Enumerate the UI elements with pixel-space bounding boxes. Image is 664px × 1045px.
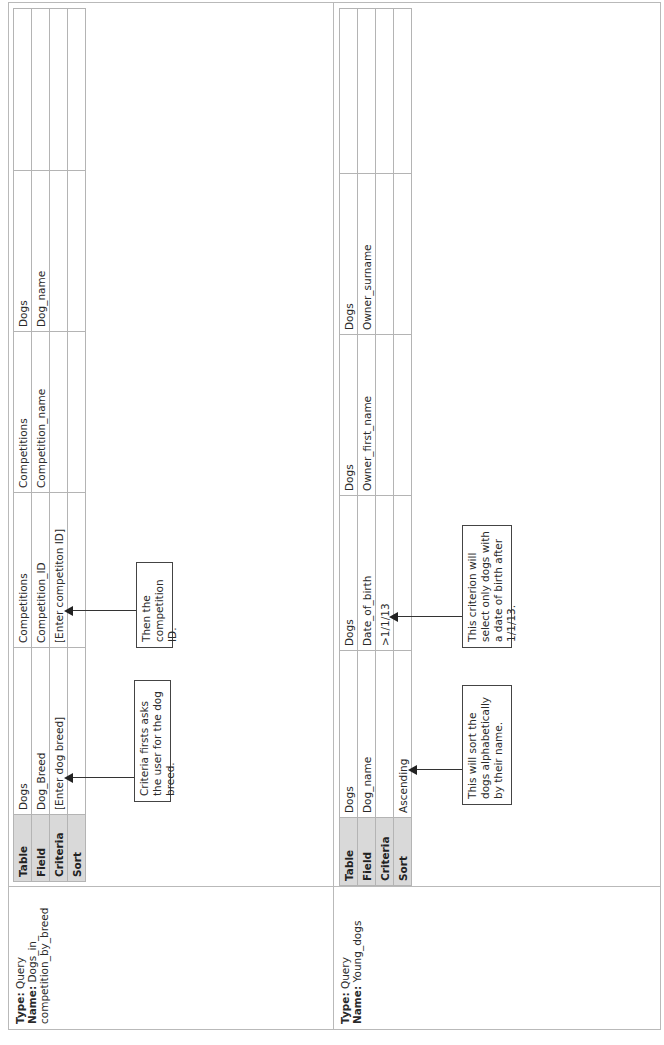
type-label: Type: bbox=[14, 992, 26, 1024]
grid-row-sort: Sort Ascending bbox=[394, 9, 412, 886]
query-row-divider bbox=[333, 2, 334, 1030]
name-label: Name: bbox=[351, 986, 363, 1024]
grid-row-table: Table Dogs Competitions Competitions Dog… bbox=[14, 9, 32, 882]
row-header-table: Table bbox=[340, 818, 358, 886]
query-2-design-grid: Table Dogs Dogs Dogs Dogs Field Dog_name… bbox=[339, 8, 412, 886]
grid-cell[interactable]: Dogs bbox=[14, 171, 32, 332]
row-header-table: Table bbox=[14, 815, 32, 882]
grid-cell[interactable] bbox=[50, 9, 68, 171]
grid-cell[interactable]: Date_of_birth bbox=[358, 496, 376, 651]
callout-note: This will sort the dogs alphabetically b… bbox=[462, 685, 512, 805]
grid-cell[interactable]: Dog_name bbox=[32, 171, 50, 332]
grid-cell[interactable] bbox=[68, 9, 86, 171]
grid-cell[interactable]: Dog_Breed bbox=[32, 648, 50, 815]
grid-cell[interactable] bbox=[394, 335, 412, 496]
row-header-sort: Sort bbox=[394, 818, 412, 886]
grid-cell[interactable] bbox=[394, 9, 412, 174]
grid-cell[interactable] bbox=[340, 9, 358, 174]
grid-cell[interactable]: Dogs bbox=[340, 335, 358, 496]
grid-cell[interactable] bbox=[376, 174, 394, 335]
row-header-sort: Sort bbox=[68, 815, 86, 882]
query-1-design-grid: Table Dogs Competitions Competitions Dog… bbox=[13, 8, 86, 882]
grid-cell[interactable]: >1/1/13 bbox=[376, 496, 394, 651]
arrow-head-icon bbox=[64, 606, 73, 616]
grid-cell[interactable]: Dogs bbox=[340, 496, 358, 651]
grid-row-criteria: Criteria >1/1/13 bbox=[376, 9, 394, 886]
arrow-head-icon bbox=[408, 765, 417, 775]
callout-arrow bbox=[417, 769, 462, 770]
grid-cell[interactable] bbox=[14, 9, 32, 171]
type-label: Type: bbox=[339, 992, 351, 1024]
callout-note: Criteria firsts asks the user for the do… bbox=[134, 680, 171, 802]
grid-cell[interactable]: Competition_ID bbox=[32, 493, 50, 648]
grid-cell[interactable]: Ascending bbox=[394, 651, 412, 818]
type-value: Query bbox=[14, 957, 26, 989]
row-header-criteria: Criteria bbox=[50, 815, 68, 882]
name-value: Young_dogs bbox=[351, 921, 363, 983]
grid-cell[interactable]: Owner_first_name bbox=[358, 335, 376, 496]
grid-cell[interactable] bbox=[32, 9, 50, 171]
grid-cell[interactable]: Dog_name bbox=[358, 651, 376, 818]
grid-cell[interactable] bbox=[50, 332, 68, 493]
callout-arrow bbox=[73, 777, 134, 778]
callout-note: Then the competition ID. bbox=[136, 562, 173, 648]
grid-cell[interactable] bbox=[68, 493, 86, 648]
document-page: Type: Query Name: Dogs_in_ competition_b… bbox=[0, 0, 664, 1045]
grid-cell[interactable]: Competitions bbox=[14, 493, 32, 648]
grid-cell[interactable] bbox=[68, 648, 86, 815]
grid-cell[interactable]: [Enter dog breed] bbox=[50, 648, 68, 815]
callout-arrow bbox=[398, 616, 462, 617]
grid-cell[interactable]: Dogs bbox=[340, 651, 358, 818]
grid-cell[interactable]: Owner_surname bbox=[358, 174, 376, 335]
grid-row-criteria: Criteria [Enter dog breed] [Enter compet… bbox=[50, 9, 68, 882]
grid-cell[interactable] bbox=[358, 9, 376, 174]
grid-cell[interactable] bbox=[68, 171, 86, 332]
grid-row-field: Field Dog_Breed Competition_ID Competiti… bbox=[32, 9, 50, 882]
grid-cell[interactable] bbox=[394, 496, 412, 651]
grid-cell[interactable] bbox=[376, 335, 394, 496]
query-1-info: Type: Query Name: Dogs_in_ competition_b… bbox=[14, 889, 50, 1024]
row-header-criteria: Criteria bbox=[376, 818, 394, 886]
grid-cell[interactable]: Dogs bbox=[340, 174, 358, 335]
grid-row-field: Field Dog_name Date_of_birth Owner_first… bbox=[358, 9, 376, 886]
grid-row-sort: Sort bbox=[68, 9, 86, 882]
name-label: Name: bbox=[26, 986, 38, 1024]
grid-cell[interactable]: Competition_name bbox=[32, 332, 50, 493]
query-2-info: Type: Query Name: Young_dogs bbox=[339, 889, 363, 1024]
grid-cell[interactable]: [Enter competiton ID] bbox=[50, 493, 68, 648]
type-value: Query bbox=[339, 957, 351, 989]
info-column-divider bbox=[8, 886, 661, 887]
grid-cell[interactable] bbox=[68, 332, 86, 493]
page-border bbox=[8, 2, 661, 1030]
callout-arrow bbox=[73, 610, 136, 611]
arrow-head-icon bbox=[389, 612, 398, 622]
grid-cell[interactable] bbox=[50, 171, 68, 332]
grid-cell[interactable] bbox=[394, 174, 412, 335]
grid-row-table: Table Dogs Dogs Dogs Dogs bbox=[340, 9, 358, 886]
grid-cell[interactable]: Competitions bbox=[14, 332, 32, 493]
row-header-field: Field bbox=[32, 815, 50, 882]
grid-cell[interactable]: Dogs bbox=[14, 648, 32, 815]
arrow-head-icon bbox=[64, 773, 73, 783]
name-value: Dogs_in_ bbox=[26, 936, 38, 983]
row-header-field: Field bbox=[358, 818, 376, 886]
grid-cell[interactable] bbox=[376, 651, 394, 818]
name-value-continued: competition_by_breed bbox=[38, 889, 50, 1024]
grid-cell[interactable] bbox=[376, 9, 394, 174]
callout-note: This criterion will select only dogs wit… bbox=[462, 525, 512, 648]
